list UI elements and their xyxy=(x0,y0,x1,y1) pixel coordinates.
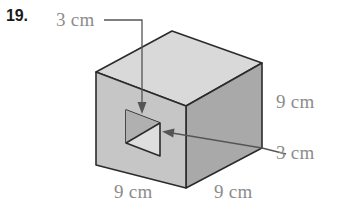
label-hole-top: 3 cm xyxy=(56,10,95,29)
label-hole-right: 3 cm xyxy=(276,143,315,162)
label-height-right: 9 cm xyxy=(276,92,315,111)
label-width-bottom-left: 9 cm xyxy=(114,182,153,201)
geometry-figure: 19. 3 cm 9 cm 3 cm 9 cm 9 cm xyxy=(0,0,343,208)
label-depth-bottom-right: 9 cm xyxy=(214,182,253,201)
